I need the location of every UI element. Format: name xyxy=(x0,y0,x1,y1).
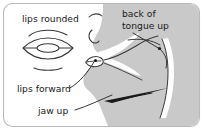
lip-aperture xyxy=(37,44,59,52)
articulation-figure: lips rounded back of tongue up lips forw… xyxy=(0,0,203,130)
label-back-of-tongue-line2: tongue up xyxy=(122,20,169,31)
label-jaw-up: jaw up xyxy=(37,105,68,116)
tongue-target-dot xyxy=(158,47,161,50)
figure-canvas: lips rounded back of tongue up lips forw… xyxy=(0,0,203,130)
label-lips-rounded: lips rounded xyxy=(22,13,79,24)
label-back-of-tongue-line1: back of xyxy=(122,8,156,19)
lips-target-dot xyxy=(94,59,97,62)
label-lips-forward: lips forward xyxy=(17,83,71,94)
